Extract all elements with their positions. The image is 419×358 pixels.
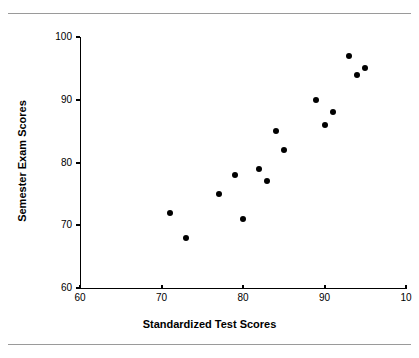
data-point	[346, 53, 352, 59]
y-tick-mark	[76, 36, 80, 38]
data-point	[281, 147, 287, 153]
data-point	[362, 65, 368, 71]
data-point	[273, 128, 279, 134]
data-point	[167, 210, 173, 216]
data-point	[330, 109, 336, 115]
data-point	[313, 97, 319, 103]
data-point	[322, 122, 328, 128]
y-tick-label: 60	[46, 283, 72, 293]
y-axis-line	[80, 37, 81, 289]
x-tick-mark	[405, 285, 407, 289]
x-tick-label: 10	[393, 293, 419, 303]
y-tick-label: 90	[46, 95, 72, 105]
x-tick-label: 90	[312, 293, 338, 303]
x-tick-mark	[242, 285, 244, 289]
scatter-plot: 60708090100 6070809010 Semester Exam Sco…	[0, 0, 419, 358]
y-tick-label: 80	[46, 158, 72, 168]
x-tick-mark	[324, 285, 326, 289]
figure-container: 60708090100 6070809010 Semester Exam Sco…	[0, 0, 419, 358]
x-tick-label: 80	[230, 293, 256, 303]
x-tick-mark	[79, 285, 81, 289]
y-tick-mark	[76, 224, 80, 226]
data-point	[216, 191, 222, 197]
data-point	[264, 178, 270, 184]
data-point	[232, 172, 238, 178]
x-axis-label: Standardized Test Scores	[0, 318, 419, 330]
data-point	[354, 72, 360, 78]
data-point	[240, 216, 246, 222]
data-point	[183, 235, 189, 241]
y-tick-mark	[76, 162, 80, 164]
x-tick-label: 60	[67, 293, 93, 303]
x-tick-mark	[161, 285, 163, 289]
x-tick-label: 70	[149, 293, 175, 303]
y-tick-label: 100	[46, 32, 72, 42]
y-tick-mark	[76, 99, 80, 101]
data-point	[256, 166, 262, 172]
y-axis-label: Semester Exam Scores	[16, 81, 28, 241]
y-tick-label: 70	[46, 220, 72, 230]
